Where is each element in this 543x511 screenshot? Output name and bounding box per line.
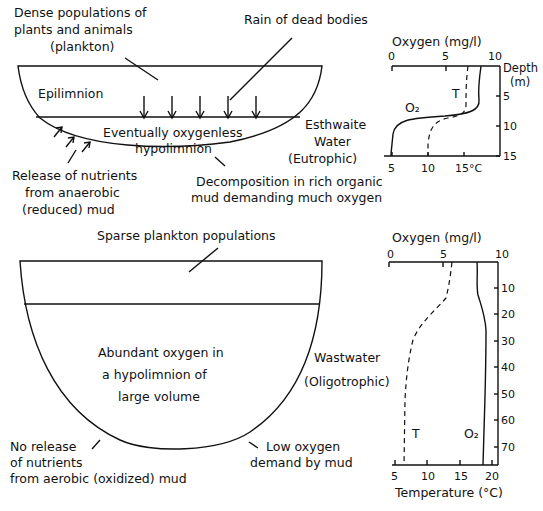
bottom-chart-o2-label: O₂ xyxy=(464,426,479,441)
release-nutrients-label-2: from anaerobic xyxy=(25,185,120,200)
hypolimnion-label-2: hypolimnion xyxy=(135,141,212,156)
bottom-chart-temp-tick-5: 5 xyxy=(391,470,398,483)
esthwaite-name-2: Water xyxy=(314,134,352,149)
low-demand-pointer xyxy=(249,442,258,448)
esthwaite-type: (Eutrophic) xyxy=(288,151,357,166)
top-chart-depth-label: Depth xyxy=(503,61,538,75)
bottom-chart-oxygen-tick-5: 5 xyxy=(440,248,447,261)
bottom-chart-temp-tick-15: 15 xyxy=(454,470,468,483)
no-release-label-3: from aerobic (oxidized) mud xyxy=(10,471,187,486)
rain-arrows-icon xyxy=(140,96,260,118)
release-nutrients-label-3: (reduced) mud xyxy=(22,202,115,217)
top-lake: Dense populations of plants and animals … xyxy=(12,5,383,217)
dense-plankton-label-2: plants and animals xyxy=(14,22,133,37)
sparse-plankton-pointer xyxy=(189,248,218,272)
top-chart-t-label: T xyxy=(451,86,460,101)
low-oxygen-label-1: Low oxygen xyxy=(266,439,340,454)
bottom-chart-depth-tick-10: 10 xyxy=(501,282,515,295)
no-release-label-2: of nutrients xyxy=(10,455,82,470)
top-chart-temp-tick-15: 15°C xyxy=(455,162,482,175)
top-chart-temp-tick-5: 5 xyxy=(388,162,395,175)
decomposition-label-1: Decomposition in rich organic xyxy=(196,174,383,189)
top-chart-temp-tick-10: 10 xyxy=(421,162,435,175)
top-chart-depth-unit: (m) xyxy=(510,75,530,89)
wastwater-profile-chart: Oxygen (mg/l) 0 5 10 10 20 30 40 50 60 7… xyxy=(387,230,515,500)
bottom-chart-t-label: T xyxy=(411,426,420,441)
decomposition-label-2: mud demanding much oxygen xyxy=(191,190,382,205)
top-chart-oxygen-tick-0: 0 xyxy=(388,50,395,63)
bottom-chart-temp-tick-20: 20 xyxy=(485,470,499,483)
bottom-chart-depth-tick-40: 40 xyxy=(501,361,515,374)
low-oxygen-label-2: demand by mud xyxy=(250,455,353,470)
lake-diagram-canvas: Dense populations of plants and animals … xyxy=(0,0,543,511)
bottom-chart-temperature-axis-label: Temperature (°C) xyxy=(394,485,503,500)
esthwaite-profile-chart: Oxygen (mg/l) 0 5 10 Depth (m) 5 10 15 5… xyxy=(384,34,538,175)
wastwater-type: (Oligotrophic) xyxy=(304,374,390,389)
hypolimnion-label-1: Eventually oxygenless xyxy=(103,125,243,140)
no-release-pointer xyxy=(92,440,100,449)
no-release-label-1: No release xyxy=(10,439,77,454)
dense-plankton-pointer xyxy=(125,58,158,80)
release-nutrients-label-1: Release of nutrients xyxy=(12,168,137,183)
bottom-chart-depth-tick-20: 20 xyxy=(501,308,515,321)
top-chart-o2-label: O₂ xyxy=(405,100,420,115)
epilimnion-label: Epilimnion xyxy=(38,86,103,101)
bottom-chart-temp-tick-10: 10 xyxy=(421,470,435,483)
dense-plankton-label-1: Dense populations of xyxy=(14,5,147,20)
abundant-oxygen-label-3: large volume xyxy=(118,389,200,404)
bottom-chart-depth-tick-30: 30 xyxy=(501,335,515,348)
nutrient-release-arrows-icon xyxy=(54,127,90,163)
abundant-oxygen-label-2: a hypolimnion of xyxy=(102,367,207,382)
bottom-chart-oxygen-axis-label: Oxygen (mg/l) xyxy=(392,230,482,245)
sparse-plankton-label: Sparse plankton populations xyxy=(97,228,276,243)
bottom-chart-depth-tick-50: 50 xyxy=(501,388,515,401)
top-chart-oxygen-tick-10: 10 xyxy=(488,50,502,63)
rain-label: Rain of dead bodies xyxy=(244,12,368,27)
bottom-chart-oxygen-tick-0: 0 xyxy=(387,248,394,261)
rain-pointer xyxy=(230,38,292,100)
bottom-lake: Sparse plankton populations Abundant oxy… xyxy=(10,228,390,486)
bottom-chart-depth-tick-70: 70 xyxy=(501,441,515,454)
decomposition-pointer xyxy=(215,157,225,166)
bottom-chart-oxygen-tick-10: 10 xyxy=(495,248,509,261)
top-chart-depth-tick-10: 10 xyxy=(503,120,517,133)
top-chart-oxygen-axis-label: Oxygen (mg/l) xyxy=(392,34,482,49)
top-chart-temperature-curve xyxy=(428,66,468,156)
wastwater-name: Wastwater xyxy=(314,350,381,365)
dense-plankton-label-3: (plankton) xyxy=(50,39,114,54)
abundant-oxygen-label-1: Abundant oxygen in xyxy=(98,345,224,360)
top-chart-depth-tick-15: 15 xyxy=(503,150,517,163)
bottom-chart-depth-tick-60: 60 xyxy=(501,414,515,427)
esthwaite-name-1: Esthwaite xyxy=(305,117,366,132)
top-chart-oxygen-tick-5: 5 xyxy=(442,50,449,63)
top-chart-depth-tick-5: 5 xyxy=(503,90,510,103)
